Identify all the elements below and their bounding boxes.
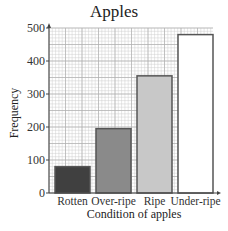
- y-tick-label: 200: [27, 120, 45, 134]
- y-tick-label: 500: [27, 21, 45, 35]
- x-category-label: Ripe: [144, 195, 166, 208]
- y-tick-label: 400: [27, 54, 45, 68]
- bar-chart: 0100200300400500RottenOver-ripeRipeUnder…: [0, 0, 228, 231]
- bar-over-ripe: [96, 129, 131, 193]
- x-category-label: Rotten: [57, 195, 88, 207]
- x-category-label: Under-ripe: [170, 195, 220, 208]
- y-tick-label: 300: [27, 87, 45, 101]
- bar-ripe: [137, 76, 172, 193]
- y-tick-label: 100: [27, 153, 45, 167]
- y-tick-label: 0: [39, 186, 45, 200]
- bar-under-ripe: [178, 35, 213, 193]
- bar-rotten: [55, 167, 90, 193]
- x-category-label: Over-ripe: [91, 195, 135, 208]
